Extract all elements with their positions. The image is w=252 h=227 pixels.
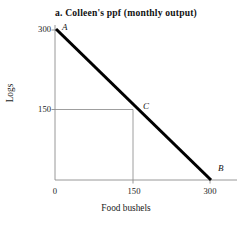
- data-point-label-b: B: [218, 163, 224, 173]
- x-axis-tick-label-300: 300: [199, 186, 221, 196]
- data-point-label-a: A: [62, 22, 68, 32]
- y-axis-tick-label-150: 150: [27, 104, 51, 114]
- x-axis-title: Food bushels: [0, 203, 252, 213]
- chart-figure: a. Colleen's ppf (monthly output) 300 15…: [0, 0, 252, 227]
- x-axis-tick-label-150: 150: [123, 186, 145, 196]
- x-axis-tick-label-0: 0: [47, 186, 63, 196]
- y-axis-title: Logs: [5, 65, 15, 121]
- y-axis-tick-label-300: 300: [27, 24, 51, 34]
- data-point-label-c: C: [143, 101, 149, 111]
- ppf-line: [56, 29, 211, 180]
